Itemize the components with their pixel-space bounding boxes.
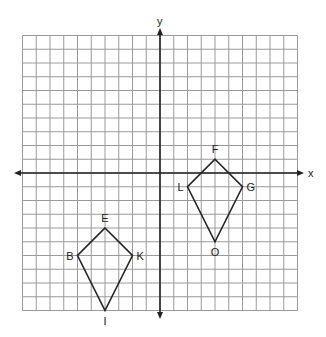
axes: xy: [14, 15, 314, 319]
y-axis-down-arrow-icon: [157, 312, 163, 319]
vertex-label-B: B: [66, 250, 73, 262]
vertex-label-E: E: [101, 212, 108, 224]
vertex-label-K: K: [137, 250, 145, 262]
y-axis-label: y: [157, 15, 163, 27]
coordinate-plane: xy EKIBFGOL: [0, 0, 326, 337]
vertex-label-L: L: [177, 181, 183, 193]
y-axis-up-arrow-icon: [157, 28, 163, 35]
vertex-label-I: I: [103, 315, 106, 327]
vertex-label-F: F: [212, 143, 219, 155]
vertex-label-O: O: [211, 246, 220, 258]
x-axis-right-arrow-icon: [297, 170, 304, 176]
x-axis-left-arrow-icon: [14, 170, 21, 176]
vertex-label-G: G: [247, 181, 256, 193]
x-axis-label: x: [308, 167, 314, 179]
